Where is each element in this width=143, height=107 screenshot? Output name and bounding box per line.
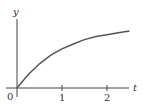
x-axis-label: t [133,82,138,93]
x-tick-label-1: 1 [59,92,65,103]
curve [17,31,130,88]
plot: y t 0 1 2 [0,0,143,107]
x-tick-label-2: 2 [104,92,110,103]
origin-label: 0 [7,91,13,102]
y-axis-label: y [12,6,19,17]
